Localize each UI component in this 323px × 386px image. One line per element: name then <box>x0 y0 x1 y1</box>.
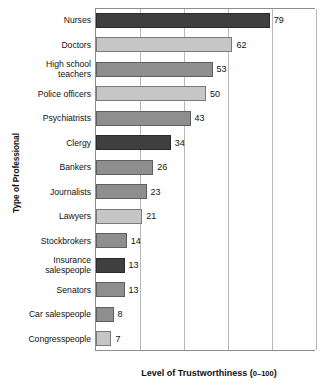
bar <box>96 62 213 77</box>
category-label-line: salespeople <box>3 265 91 275</box>
bar-group: 79 <box>96 13 284 28</box>
bar <box>96 86 206 101</box>
bar-group: 23 <box>96 184 161 199</box>
category-label-line: Congresspeople <box>3 334 91 344</box>
bar-row: Police officers50 <box>0 82 323 107</box>
bar-group: 21 <box>96 209 156 224</box>
bar-row: Congresspeople7 <box>0 327 323 352</box>
category-label-line: Police officers <box>3 89 91 99</box>
bar <box>96 135 171 150</box>
bar-value-label: 14 <box>131 236 141 246</box>
bar-rows: Nurses79Doctors62High schoolteachers53Po… <box>0 8 323 351</box>
bar-group: 13 <box>96 282 139 297</box>
bar-group: 14 <box>96 233 141 248</box>
category-label-line: Nurses <box>3 15 91 25</box>
bar-row: High schoolteachers53 <box>0 57 323 82</box>
category-label: Police officers <box>3 89 91 99</box>
bar-row: Senators13 <box>0 278 323 303</box>
bar-value-label: 34 <box>175 138 185 148</box>
bar-row: Doctors62 <box>0 33 323 58</box>
bar-row: Bankers26 <box>0 155 323 180</box>
bar <box>96 111 191 126</box>
bar-value-label: 13 <box>129 285 139 295</box>
bar-value-label: 50 <box>210 89 220 99</box>
x-axis-title-main: Level of Trustworthiness ( <box>141 368 253 378</box>
bar-row: Car salespeople8 <box>0 302 323 327</box>
x-axis-title-close: ) <box>274 368 277 378</box>
category-label-line: Psychiatrists <box>3 113 91 123</box>
category-label: Doctors <box>3 40 91 50</box>
category-label: Senators <box>3 285 91 295</box>
bar-group: 13 <box>96 258 139 273</box>
category-label-line: Lawyers <box>3 211 91 221</box>
bar-group: 50 <box>96 86 220 101</box>
category-label-line: Clergy <box>3 138 91 148</box>
bar-row: Stockbrokers14 <box>0 229 323 254</box>
x-axis-title-range: 0–100 <box>253 369 274 378</box>
category-label-line: Car salespeople <box>3 309 91 319</box>
bar-row: Clergy34 <box>0 131 323 156</box>
category-label: Stockbrokers <box>3 236 91 246</box>
bar-group: 7 <box>96 331 120 346</box>
bar <box>96 258 125 273</box>
bar-value-label: 8 <box>118 309 123 319</box>
category-label-line: High school <box>3 59 91 69</box>
bar-group: 62 <box>96 37 246 52</box>
category-label: Clergy <box>3 138 91 148</box>
bar <box>96 307 114 322</box>
category-label-line: teachers <box>3 69 91 79</box>
bar-row: Lawyers21 <box>0 204 323 229</box>
category-label: Bankers <box>3 162 91 172</box>
bar <box>96 331 111 346</box>
bar-value-label: 26 <box>157 162 167 172</box>
bar <box>96 282 125 297</box>
bar-value-label: 21 <box>146 211 156 221</box>
bar-value-label: 79 <box>274 15 284 25</box>
category-label-line: Insurance <box>3 255 91 265</box>
bar-value-label: 23 <box>151 187 161 197</box>
category-label: Congresspeople <box>3 334 91 344</box>
bar-group: 43 <box>96 111 205 126</box>
category-label: High schoolteachers <box>3 59 91 79</box>
category-label: Nurses <box>3 15 91 25</box>
bar-chart: Type of Professional Nurses79Doctors62Hi… <box>0 0 323 386</box>
bar <box>96 13 270 28</box>
category-label: Insurancesalespeople <box>3 255 91 275</box>
bar-row: Journalists23 <box>0 180 323 205</box>
category-label: Psychiatrists <box>3 113 91 123</box>
bar-group: 8 <box>96 307 123 322</box>
bar-row: Psychiatrists43 <box>0 106 323 131</box>
category-label-line: Stockbrokers <box>3 236 91 246</box>
bar-row: Nurses79 <box>0 8 323 33</box>
bar-value-label: 7 <box>115 334 120 344</box>
x-axis-title: Level of Trustworthiness (0–100) <box>95 368 323 378</box>
bar <box>96 184 147 199</box>
bar-value-label: 13 <box>129 260 139 270</box>
category-label-line: Doctors <box>3 40 91 50</box>
bar-group: 26 <box>96 160 167 175</box>
category-label-line: Bankers <box>3 162 91 172</box>
bar-group: 34 <box>96 135 185 150</box>
bar-group: 53 <box>96 62 227 77</box>
bar <box>96 37 232 52</box>
category-label: Lawyers <box>3 211 91 221</box>
category-label: Car salespeople <box>3 309 91 319</box>
bar-row: Insurancesalespeople13 <box>0 253 323 278</box>
bar-value-label: 43 <box>195 113 205 123</box>
bar <box>96 160 153 175</box>
bar <box>96 233 127 248</box>
bar <box>96 209 142 224</box>
bar-value-label: 62 <box>236 40 246 50</box>
bar-value-label: 53 <box>217 64 227 74</box>
category-label-line: Journalists <box>3 187 91 197</box>
category-label-line: Senators <box>3 285 91 295</box>
category-label: Journalists <box>3 187 91 197</box>
